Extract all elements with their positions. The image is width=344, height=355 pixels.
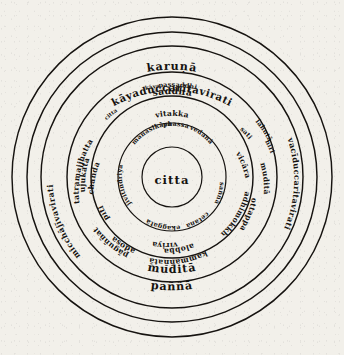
label-vaciduccaritavirati: vacīduccaritavirati [282,135,302,231]
label-piti: pīti [96,204,111,222]
concentric-cetasika-diagram: citta manasikāra phassa vedanā saññā cet… [0,0,344,355]
label-phassa: phassa [162,120,190,131]
label-karuna: karuṇā [146,59,199,75]
label-vitakka: vitakka [153,109,189,120]
label-sanna: saññā [213,182,226,206]
label-lahuta: lahutā [254,118,275,144]
label-cetana: cetanā [185,210,211,230]
label-jivitindriya: jīvitindriya [116,164,134,208]
label-vedana: vedanā [188,123,215,146]
diagram-canvas: citta manasikāra phassa vedanā saññā cet… [0,0,344,355]
ring-occasionals-labels: vitakka vicāra adhimokkha ottappa muditā… [0,0,271,267]
label-mudita-inner: muditā [258,162,271,195]
label-ekaggata: ekaggatā [144,217,180,232]
label-mudita-outer: muditā [147,260,198,276]
label-panna: paññā [150,278,194,293]
label-citta: citta [154,173,189,187]
